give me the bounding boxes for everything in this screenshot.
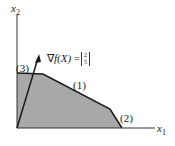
- x-axis-label: x1: [157, 123, 166, 137]
- feasible-region: [17, 73, 122, 128]
- gradient-label: ∇f(X) =25: [47, 52, 90, 66]
- constraint-label-3: (3): [16, 63, 29, 74]
- nabla-symbol: ∇: [47, 52, 54, 64]
- constraint-label-2: (2): [120, 113, 133, 124]
- y-axis-label: x2: [11, 3, 20, 17]
- gradient-arrow-head: [35, 54, 41, 63]
- gradient-vector: 25: [81, 52, 90, 66]
- constraint-label-1: (1): [73, 80, 86, 91]
